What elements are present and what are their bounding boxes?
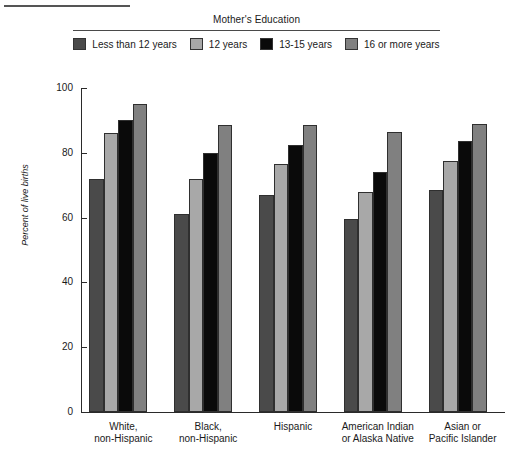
chart-bar bbox=[118, 120, 133, 412]
chart-bar bbox=[259, 195, 274, 412]
y-axis-tick-label: 80 bbox=[47, 148, 73, 158]
chart-bar bbox=[133, 104, 148, 412]
chart-bar bbox=[218, 125, 233, 412]
chart-bar bbox=[203, 153, 218, 412]
chart-bar bbox=[174, 214, 189, 412]
y-axis-title: Percent of live births bbox=[20, 150, 30, 260]
chart-bar bbox=[303, 125, 318, 412]
y-axis-tick-label: 60 bbox=[47, 213, 73, 223]
y-axis-tick bbox=[82, 88, 87, 89]
chart-bar bbox=[472, 124, 487, 412]
y-axis-line bbox=[81, 88, 82, 413]
chart-bar bbox=[274, 164, 289, 412]
chart-bar bbox=[373, 172, 388, 412]
y-axis-tick bbox=[82, 282, 87, 283]
chart-bar bbox=[288, 145, 303, 412]
x-axis-category-line: Asian or bbox=[408, 421, 513, 433]
bar-chart-plot: Percent of live births 020406080100White… bbox=[0, 0, 513, 467]
chart-bar bbox=[458, 141, 473, 412]
x-axis-category-line: Pacific Islander bbox=[408, 433, 513, 445]
x-axis-category-label: Asian orPacific Islander bbox=[408, 421, 513, 445]
chart-bar bbox=[89, 179, 104, 412]
y-axis-tick-label: 100 bbox=[47, 83, 73, 93]
x-axis-line bbox=[81, 412, 505, 413]
chart-bar bbox=[344, 219, 359, 412]
chart-bar bbox=[358, 192, 373, 412]
x-axis-category-line: non-Hispanic bbox=[154, 433, 263, 445]
y-axis-tick bbox=[82, 218, 87, 219]
chart-bar bbox=[104, 133, 119, 412]
y-axis-tick-label: 40 bbox=[47, 277, 73, 287]
chart-bar bbox=[443, 161, 458, 412]
chart-bar bbox=[429, 190, 444, 412]
y-axis-tick-label: 20 bbox=[47, 342, 73, 352]
y-axis-tick bbox=[82, 347, 87, 348]
y-axis-tick-label: 0 bbox=[47, 407, 73, 417]
chart-bar bbox=[387, 132, 402, 412]
chart-bar bbox=[189, 179, 204, 412]
y-axis-tick bbox=[82, 153, 87, 154]
